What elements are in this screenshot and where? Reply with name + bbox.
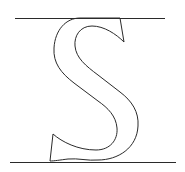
letter-s-outline <box>50 18 138 161</box>
letter-s-diagram: S <box>0 0 185 172</box>
